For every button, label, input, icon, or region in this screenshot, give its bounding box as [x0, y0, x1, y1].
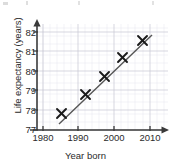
minor-gridlines — [37, 24, 168, 130]
data-point-2001 — [118, 53, 127, 62]
data-point-1991 — [81, 90, 90, 99]
data-point-markers — [57, 36, 147, 118]
x-axis-line — [30, 126, 169, 133]
life-expectancy-scatter-chart: Life expectancy (years) 82 81 80 79 78 7… — [0, 0, 171, 165]
y-axis-line — [33, 19, 40, 130]
trend-line — [59, 35, 152, 124]
chart-canvas — [0, 0, 171, 165]
